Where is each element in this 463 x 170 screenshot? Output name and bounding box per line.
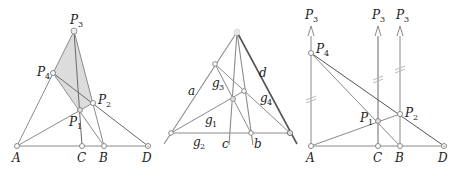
label-B-right: B [394,151,404,165]
point-P3 [71,28,77,34]
arrow-up-B-icon [397,26,403,36]
svg-text:3: 3 [219,83,224,92]
point-C-right [376,144,381,149]
label-P3-arrow-C: P 3 [371,8,385,24]
point-P2 [91,101,96,106]
arrow-up-A-icon [308,26,314,36]
label-D-right: D [437,151,448,165]
line-c [229,32,237,145]
label-P4: P 4 [36,65,50,81]
svg-text:4: 4 [324,49,329,58]
svg-text:2: 2 [200,142,205,151]
label-P1-right: P 1 [359,111,373,127]
label-A-right: A [305,151,315,165]
label-g1: g 1 [205,113,217,129]
point-D-dot [147,145,148,146]
point-upper-left [213,62,218,67]
point-P1 [78,108,83,113]
label-P4-right: P 4 [315,42,329,58]
shaded-quadrilateral [53,31,93,110]
point-B [102,144,107,149]
svg-text:3: 3 [404,15,409,24]
line-P4-D [53,73,148,146]
line-P4-B-right [311,53,400,146]
point-C [80,144,85,149]
label-B: B [98,151,108,165]
line-d [237,32,297,144]
label-a: a [188,84,195,98]
label-P3: P 3 [69,13,83,29]
point-A [15,144,20,149]
svg-text:3: 3 [78,20,83,29]
point-P2-right [398,112,403,117]
arrow-up-C-icon [375,26,381,36]
projective-geometry-figure: A C B D P 3 P 4 P 2 P 1 [0,0,463,170]
line-A-P2-right [311,114,400,146]
label-D: D [141,151,152,165]
middle-panel: a d c b g 1 g 2 g 3 g 4 [164,29,297,151]
apex-point [234,29,240,35]
point-right-mid [242,89,247,94]
line-a [164,32,237,144]
point-P1-right [376,119,381,124]
label-C-right: C [373,151,382,165]
label-C: C [77,151,86,165]
label-A: A [11,151,21,165]
svg-text:2: 2 [106,100,111,109]
svg-text:1: 1 [212,120,217,129]
label-P2: P 2 [97,93,111,109]
left-panel: A C B D P 3 P 4 P 2 P 1 [11,13,152,165]
point-P4 [51,71,56,76]
label-d: d [259,66,267,80]
label-g2: g 2 [193,135,205,151]
point-B-right [398,144,403,149]
label-c: c [222,137,229,151]
point-A-right [309,144,314,149]
svg-text:1: 1 [77,122,82,131]
point-left [169,131,174,136]
label-P3-arrow-B: P 3 [395,8,409,24]
point-b-base [249,131,254,136]
point-right-dot [289,132,290,133]
point-center [231,97,236,102]
label-b: b [254,137,262,151]
svg-text:3: 3 [380,15,385,24]
point-D-right-dot [443,145,444,146]
right-panel: A C B D P 3 P 3 P 3 P 4 P 2 P 1 [304,8,448,165]
svg-text:3: 3 [313,15,318,24]
svg-text:2: 2 [413,113,418,122]
point-P4-right [309,51,314,56]
svg-text:4: 4 [267,98,272,107]
svg-text:1: 1 [368,118,373,127]
line-g4 [215,64,290,133]
label-P2-right: P 2 [404,106,418,122]
label-P3-arrow-A: P 3 [304,8,318,24]
svg-text:4: 4 [45,72,50,81]
